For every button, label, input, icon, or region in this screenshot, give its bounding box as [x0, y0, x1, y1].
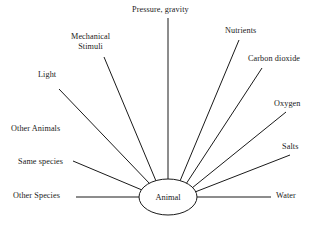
- center-node-label: Animal: [156, 193, 181, 202]
- node-label-mechanical-stimuli-line2: Stimuli: [71, 42, 110, 52]
- connector-line-carbon-dioxide: [186, 68, 262, 184]
- connector-line-light: [59, 89, 150, 184]
- node-label-oxygen: Oxygen: [274, 99, 301, 109]
- node-label-same-species: Same species: [18, 157, 63, 167]
- diagram-canvas: Pressure, gravityMechanicalStimuliLightO…: [0, 0, 312, 230]
- node-label-salts: Salts: [282, 142, 298, 152]
- node-label-nutrients: Nutrients: [225, 26, 256, 36]
- node-label-water: Water: [276, 191, 296, 201]
- node-label-light: Light: [38, 70, 56, 80]
- node-label-other-animals: Other Animals: [11, 124, 60, 134]
- node-label-other-species: Other Species: [13, 191, 60, 201]
- connector-line-oxygen: [192, 112, 286, 188]
- node-label-pressure-gravity: Pressure, gravity: [132, 5, 189, 15]
- node-label-carbon-dioxide: Carbon dioxide: [248, 54, 300, 64]
- connector-line-nutrients: [180, 40, 239, 181]
- node-label-mechanical-stimuli: MechanicalStimuli: [71, 32, 110, 51]
- node-label-mechanical-stimuli-line1: Mechanical: [71, 32, 110, 42]
